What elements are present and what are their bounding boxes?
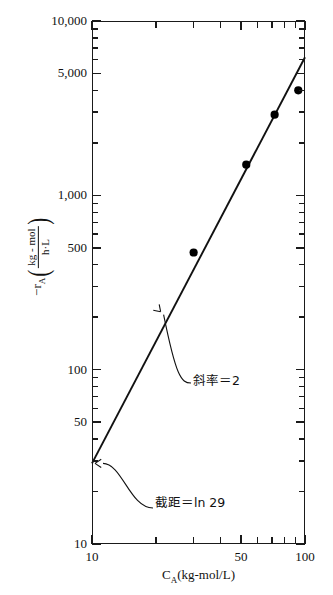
y-tick-right-90 bbox=[299, 377, 305, 378]
x-tick-top-10 bbox=[91, 21, 92, 30]
y-tick-right-5000 bbox=[296, 73, 305, 74]
x-axis-title: CA(kg-mol/L) bbox=[92, 567, 305, 585]
y-tick-right-2000 bbox=[299, 142, 305, 143]
y-tick-500 bbox=[92, 247, 101, 248]
y-tick-10000 bbox=[92, 20, 101, 21]
x-tick-90 bbox=[295, 537, 296, 544]
y-tick-right-600 bbox=[299, 233, 305, 234]
y-tick-right-7000 bbox=[299, 47, 305, 48]
y-tick-6000 bbox=[92, 59, 98, 60]
y-tick-300 bbox=[92, 286, 98, 287]
y-tick-label-5000: 5,000 bbox=[0, 66, 87, 79]
y-tick-right-100 bbox=[296, 369, 305, 370]
y-tick-800 bbox=[92, 212, 98, 213]
y-tick-900 bbox=[92, 203, 98, 204]
y-tick-60 bbox=[92, 408, 98, 409]
x-tick-60 bbox=[257, 537, 258, 544]
y-tick-right-3000 bbox=[299, 111, 305, 112]
annotation-intercept-label: 截距＝ln 29 bbox=[155, 496, 225, 510]
y-tick-right-80 bbox=[299, 386, 305, 387]
y-tick-right-800 bbox=[299, 212, 305, 213]
x-tick-label-100: 100 bbox=[280, 550, 330, 563]
y-tick-90 bbox=[92, 377, 98, 378]
y-tick-right-900 bbox=[299, 203, 305, 204]
y-tick-20 bbox=[92, 491, 98, 492]
y-tick-10 bbox=[92, 543, 101, 544]
y-tick-right-1000 bbox=[296, 195, 305, 196]
x-tick-50 bbox=[240, 535, 241, 544]
x-tick-20 bbox=[155, 537, 156, 544]
figure-container: 10501005001,0005,00010,0001050100 CA(kg-… bbox=[0, 0, 333, 595]
y-tick-8000 bbox=[92, 37, 98, 38]
y-tick-80 bbox=[92, 386, 98, 387]
y-tick-right-30 bbox=[299, 460, 305, 461]
y-tick-4000 bbox=[92, 90, 98, 91]
y-tick-right-50 bbox=[296, 421, 305, 422]
x-tick-30 bbox=[193, 537, 194, 544]
y-tick-7000 bbox=[92, 47, 98, 48]
y-tick-100 bbox=[92, 369, 101, 370]
x-tick-top-60 bbox=[257, 21, 258, 28]
y-axis-units-fraction: kg - molh·L bbox=[25, 226, 51, 267]
y-tick-right-70 bbox=[299, 396, 305, 397]
y-tick-right-700 bbox=[299, 222, 305, 223]
x-tick-top-100 bbox=[304, 21, 305, 30]
x-tick-100 bbox=[304, 535, 305, 544]
y-units-denominator: h·L bbox=[39, 226, 52, 267]
x-tick-top-50 bbox=[240, 21, 241, 30]
y-tick-400 bbox=[92, 264, 98, 265]
y-axis-subscript: A bbox=[37, 278, 47, 285]
y-tick-right-6000 bbox=[299, 59, 305, 60]
y-tick-70 bbox=[92, 396, 98, 397]
x-tick-top-80 bbox=[284, 21, 285, 28]
x-tick-top-30 bbox=[193, 21, 194, 28]
x-tick-10 bbox=[91, 535, 92, 544]
x-tick-80 bbox=[284, 537, 285, 544]
y-tick-right-60 bbox=[299, 408, 305, 409]
open-paren: ( bbox=[27, 269, 49, 276]
y-tick-200 bbox=[92, 316, 98, 317]
x-tick-top-90 bbox=[295, 21, 296, 28]
y-tick-30 bbox=[92, 460, 98, 461]
y-tick-right-4000 bbox=[299, 90, 305, 91]
y-tick-5000 bbox=[92, 73, 101, 74]
x-tick-top-20 bbox=[155, 21, 156, 28]
y-tick-700 bbox=[92, 222, 98, 223]
x-tick-70 bbox=[271, 537, 272, 544]
y-tick-9000 bbox=[92, 28, 98, 29]
y-tick-2000 bbox=[92, 142, 98, 143]
x-tick-40 bbox=[220, 537, 221, 544]
y-tick-40 bbox=[92, 438, 98, 439]
y-axis-title: −rA(kg - molh·L) bbox=[25, 171, 51, 341]
plot-area bbox=[92, 21, 305, 544]
y-tick-3000 bbox=[92, 111, 98, 112]
x-axis-units: (kg-mol/L) bbox=[177, 567, 235, 582]
y-tick-right-40 bbox=[299, 438, 305, 439]
y-tick-right-20 bbox=[299, 491, 305, 492]
y-tick-label-100: 100 bbox=[0, 363, 87, 376]
y-tick-right-200 bbox=[299, 316, 305, 317]
y-tick-label-10: 10 bbox=[0, 537, 87, 550]
y-tick-label-10000: 10,000 bbox=[0, 14, 87, 27]
y-tick-right-500 bbox=[296, 247, 305, 248]
x-tick-top-40 bbox=[220, 21, 221, 28]
x-tick-label-10: 10 bbox=[67, 550, 117, 563]
close-paren: ) bbox=[27, 218, 49, 225]
y-tick-right-400 bbox=[299, 264, 305, 265]
annotation-slope-label: 斜率＝2 bbox=[193, 374, 240, 388]
y-tick-50 bbox=[92, 421, 101, 422]
y-tick-right-300 bbox=[299, 286, 305, 287]
x-tick-top-70 bbox=[271, 21, 272, 28]
y-tick-right-8000 bbox=[299, 37, 305, 38]
y-axis-symbol: −r bbox=[29, 284, 44, 296]
y-tick-1000 bbox=[92, 195, 101, 196]
y-tick-600 bbox=[92, 233, 98, 234]
x-axis-symbol: C bbox=[162, 567, 171, 582]
x-tick-label-50: 50 bbox=[216, 550, 266, 563]
y-tick-label-50: 50 bbox=[0, 415, 87, 428]
y-units-numerator: kg - mol bbox=[25, 226, 39, 267]
